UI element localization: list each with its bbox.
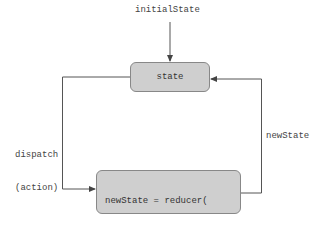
reducer-line-1: newState = reducer( [105, 196, 240, 206]
state-node-label: state [156, 72, 183, 82]
redux-flow-diagram: initialState state dispatch (action) new… [0, 0, 325, 226]
dispatch-label-line1: dispatch [15, 150, 58, 161]
dispatch-label-line2: (action) [15, 183, 58, 194]
state-node: state [130, 62, 210, 92]
dispatch-label: dispatch (action) [15, 128, 58, 216]
initial-state-label: initialState [135, 5, 200, 16]
new-state-label: newState [266, 131, 309, 142]
reducer-node: newState = reducer( oldState, action ) [96, 170, 241, 214]
